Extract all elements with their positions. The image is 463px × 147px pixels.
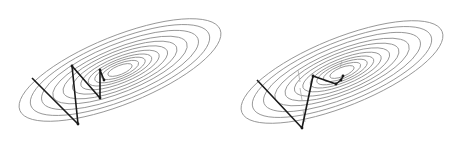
panel-right [229, 0, 455, 144]
contour-ellipse [254, 16, 429, 127]
panel-left [7, 0, 233, 142]
path-point [301, 127, 304, 130]
contour-ellipse [32, 14, 207, 125]
contour-ellipse [45, 23, 195, 118]
figure [0, 0, 463, 147]
contour-lines [7, 0, 233, 142]
contour-ellipse [267, 25, 417, 120]
contour-diagram [0, 0, 463, 147]
contour-ellipse [229, 0, 455, 144]
contour-ellipse [314, 54, 370, 90]
path-point [99, 97, 102, 100]
contour-ellipse [106, 61, 133, 79]
contour-lines [229, 0, 455, 144]
contour-ellipse [85, 48, 156, 93]
contour-ellipse [7, 0, 233, 142]
path-point [335, 83, 338, 86]
path-point [71, 65, 74, 68]
contour-ellipse [20, 6, 220, 134]
path-point [340, 79, 343, 82]
path-point [342, 75, 345, 78]
contour-ellipse [278, 32, 405, 113]
path-point [103, 79, 106, 82]
path-point [99, 69, 102, 72]
path-point [77, 123, 80, 126]
gradient-arrow [300, 88, 302, 100]
contour-ellipse [307, 50, 378, 95]
path-point [312, 75, 315, 78]
contour-ellipse [242, 8, 442, 136]
